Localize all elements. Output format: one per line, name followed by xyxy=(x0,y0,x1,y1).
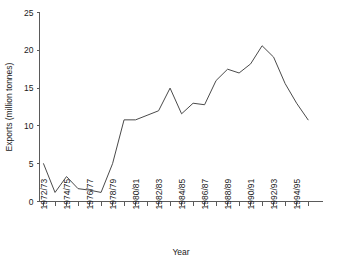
x-tick-label: 1978/79 xyxy=(108,179,118,210)
x-tick-label: 1992/93 xyxy=(269,179,279,210)
y-axis: 0510152025 xyxy=(24,8,39,207)
x-tick-label: 1990/91 xyxy=(246,179,256,210)
y-tick-label: 25 xyxy=(24,8,34,18)
y-tick-label: 5 xyxy=(29,159,34,169)
x-tick-label: 1986/87 xyxy=(200,179,210,210)
x-tick-label: 1972/73 xyxy=(39,179,49,210)
y-tick-label: 0 xyxy=(29,197,34,207)
x-tick-label: 1982/83 xyxy=(154,179,164,210)
exports-series xyxy=(44,46,309,193)
x-tick-label: 1980/81 xyxy=(131,179,141,210)
x-tick-label: 1974/75 xyxy=(62,179,72,210)
x-tick-label: 1976/77 xyxy=(85,179,95,210)
chart-canvas: 0510152025 1972/731974/751976/771978/791… xyxy=(0,0,338,266)
x-tick-label: 1994/95 xyxy=(292,179,302,210)
y-tick-label: 15 xyxy=(24,83,34,93)
x-axis: 1972/731974/751976/771978/791980/811982/… xyxy=(39,179,322,210)
line-chart: 0510152025 1972/731974/751976/771978/791… xyxy=(0,0,338,266)
x-tick-label: 1984/85 xyxy=(177,179,187,210)
x-tick-label: 1988/89 xyxy=(223,179,233,210)
y-tick-label: 20 xyxy=(24,45,34,55)
y-axis-title: Exports (million tonnes) xyxy=(4,62,14,151)
y-tick-label: 10 xyxy=(24,121,34,131)
x-axis-title: Year xyxy=(172,247,189,257)
exports-line xyxy=(44,46,309,193)
